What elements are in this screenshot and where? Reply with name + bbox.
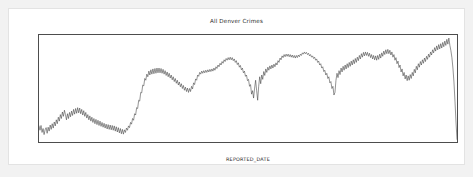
x-tick-mark-minor — [148, 142, 149, 143]
x-tick-mark-minor — [45, 142, 46, 143]
x-tick-mark-minor — [353, 142, 354, 143]
y-tick-mark — [38, 42, 39, 43]
line-chart-svg — [39, 35, 457, 142]
chart-title: All Denver Crimes — [9, 18, 464, 24]
x-tick-mark-minor — [430, 142, 431, 143]
x-tick-mark-minor — [71, 142, 72, 143]
x-tick-mark-minor — [58, 142, 59, 143]
x-tick-mark-minor — [186, 142, 187, 143]
plot-area: 100012001400160018002000 201320142015201… — [38, 34, 458, 143]
x-tick-mark-minor — [443, 142, 444, 143]
figure-canvas: All Denver Crimes 1000120014001600180020… — [8, 8, 465, 165]
y-tick-mark — [38, 95, 39, 96]
x-tick-mark — [314, 142, 315, 143]
x-tick-mark-minor — [276, 142, 277, 143]
x-tick-mark-minor — [340, 142, 341, 143]
x-tick-mark-minor — [327, 142, 328, 143]
x-tick-mark-minor — [199, 142, 200, 143]
x-tick-mark-minor — [289, 142, 290, 143]
x-tick-mark-minor — [302, 142, 303, 143]
x-tick-mark — [84, 142, 85, 143]
x-tick-mark — [237, 142, 238, 143]
x-tick-mark-minor — [212, 142, 213, 143]
x-tick-mark-minor — [135, 142, 136, 143]
x-tick-mark-minor — [96, 142, 97, 143]
x-tick-mark-minor — [122, 142, 123, 143]
x-tick-mark-minor — [250, 142, 251, 143]
x-tick-mark-minor — [456, 142, 457, 143]
x-tick-mark-minor — [404, 142, 405, 143]
y-tick-mark — [38, 130, 39, 131]
x-tick-mark — [161, 142, 162, 143]
x-tick-mark-minor — [109, 142, 110, 143]
x-axis-label: REPORTED_DATE — [38, 156, 458, 162]
y-tick-mark — [38, 77, 39, 78]
x-tick-mark-minor — [417, 142, 418, 143]
x-tick-mark-minor — [263, 142, 264, 143]
x-tick-mark-minor — [173, 142, 174, 143]
screenshot-root: All Denver Crimes 1000120014001600180020… — [0, 0, 473, 177]
x-tick-mark-minor — [379, 142, 380, 143]
x-tick-mark — [391, 142, 392, 143]
x-tick-mark-minor — [225, 142, 226, 143]
x-tick-mark-minor — [366, 142, 367, 143]
series-line-all-denver-crimes — [39, 38, 457, 139]
y-tick-mark — [38, 112, 39, 113]
y-tick-mark — [38, 59, 39, 60]
